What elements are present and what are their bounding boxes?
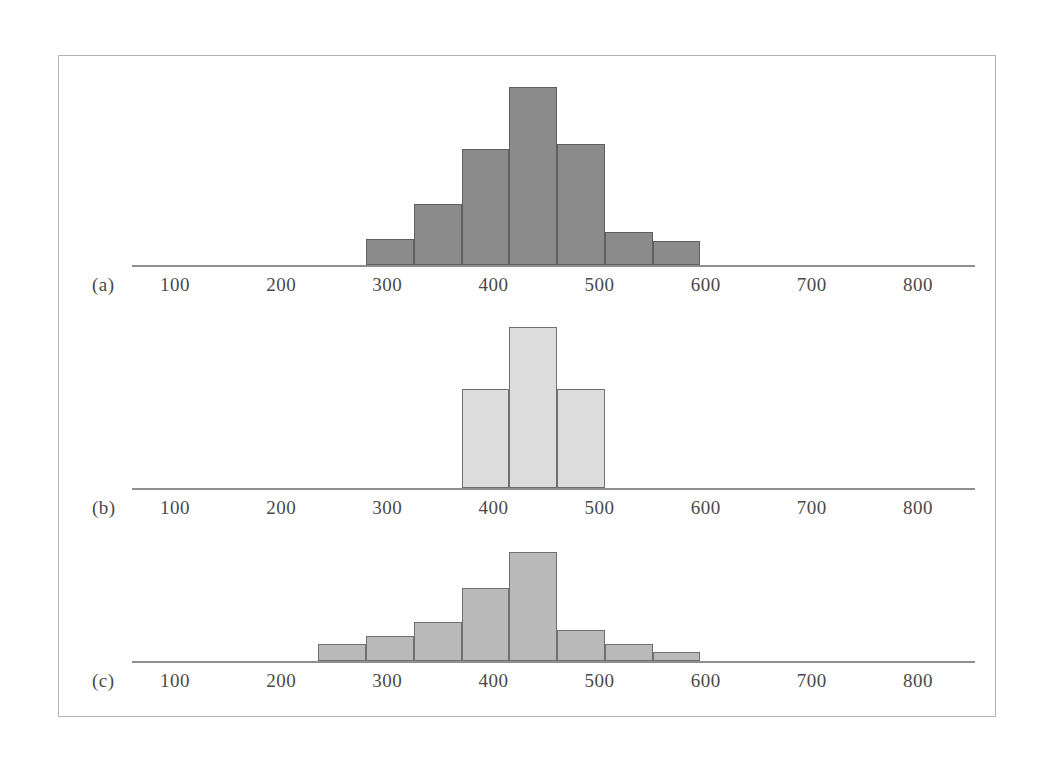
bar-c-4 [509, 552, 557, 661]
tick-label-c-600: 600 [676, 670, 736, 692]
bar-c-7 [653, 652, 701, 661]
bar-c-0 [318, 644, 366, 661]
tick-label-c-100: 100 [145, 670, 205, 692]
tick-label-c-300: 300 [357, 670, 417, 692]
figure-root: (a) 100200300400500600700800 (b) 1002003… [0, 0, 1054, 760]
tick-label-c-500: 500 [570, 670, 630, 692]
tick-label-c-400: 400 [463, 670, 523, 692]
bar-c-2 [414, 622, 462, 661]
panel-c-bars [0, 0, 1054, 760]
bar-c-3 [462, 588, 510, 661]
panel-c-axis-line [132, 661, 975, 663]
tick-label-c-800: 800 [888, 670, 948, 692]
tick-label-c-200: 200 [251, 670, 311, 692]
bar-c-5 [557, 630, 605, 661]
panel-c-label: (c) [92, 670, 115, 692]
bar-c-1 [366, 636, 414, 661]
bar-c-6 [605, 644, 653, 661]
tick-label-c-700: 700 [782, 670, 842, 692]
